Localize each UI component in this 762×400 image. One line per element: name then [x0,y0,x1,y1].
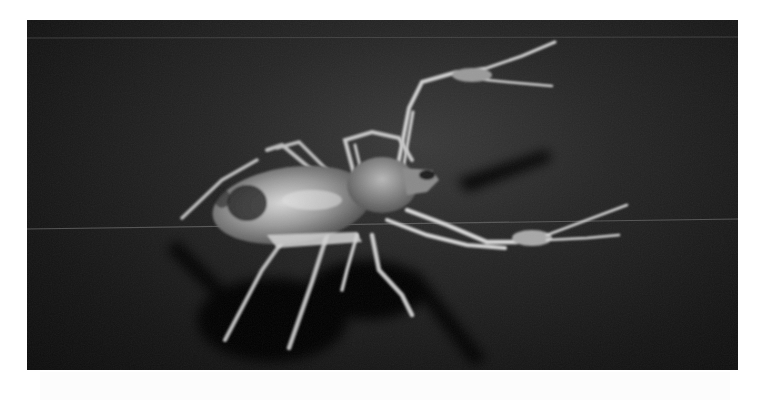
spider-photograph [27,20,738,370]
bottom-margin [40,372,730,400]
spider-illustration [27,20,738,370]
